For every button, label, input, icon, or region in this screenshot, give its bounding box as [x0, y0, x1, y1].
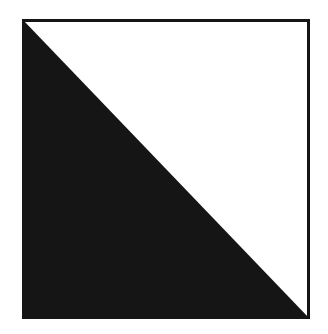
- diagram-canvas: [0, 0, 328, 334]
- split-square-figure: [22, 19, 310, 319]
- split-square-svg: [22, 19, 310, 319]
